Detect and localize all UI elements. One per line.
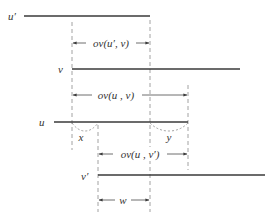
label-ov-u-v: ov(u , v) xyxy=(98,89,135,102)
label-ov-u-v-prime: ov(u , v′) xyxy=(121,148,160,161)
label-v-prime: v′ xyxy=(81,170,89,182)
dimension-ov-u-v-prime: ov(u , v′) xyxy=(99,147,187,161)
dimension-ov-u-v: ov(u , v) xyxy=(73,88,187,102)
label-y: y xyxy=(166,131,172,143)
label-u: u xyxy=(39,116,45,128)
brace-y: y xyxy=(150,123,188,143)
label-ov-u-prime-v: ov(u′, v) xyxy=(93,37,129,50)
segment-v: v xyxy=(58,63,240,75)
overlap-diagram: u′ v u v′ ov(u′, v) ov(u , v) ov(u , v′)… xyxy=(0,0,278,219)
dimension-w: w xyxy=(99,193,149,207)
dimension-ov-u-prime-v: ov(u′, v) xyxy=(73,36,149,50)
label-x: x xyxy=(78,131,84,143)
label-v: v xyxy=(58,63,63,75)
brace-x: x xyxy=(72,123,98,143)
segment-u: u xyxy=(39,116,188,128)
label-w: w xyxy=(119,194,127,206)
segment-u-prime: u′ xyxy=(8,10,150,22)
label-u-prime: u′ xyxy=(8,10,17,22)
segment-v-prime: v′ xyxy=(81,170,265,182)
